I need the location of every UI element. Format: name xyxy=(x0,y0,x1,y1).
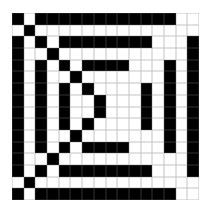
grid-cell xyxy=(106,71,118,83)
grid-cell xyxy=(94,188,106,200)
grid-cell xyxy=(152,25,164,37)
grid-cell xyxy=(47,130,59,142)
grid-cell xyxy=(117,13,129,25)
grid-cell xyxy=(59,60,71,72)
grid-cell xyxy=(129,13,141,25)
grid-cell xyxy=(35,25,47,37)
grid-cell xyxy=(176,60,188,72)
grid-cell xyxy=(59,48,71,60)
grid-cell xyxy=(176,130,188,142)
grid-cell xyxy=(70,71,82,83)
grid-cell xyxy=(129,142,141,154)
grid-cell xyxy=(141,177,153,189)
grid-cell xyxy=(164,48,176,60)
grid-cell xyxy=(94,153,106,165)
grid-cell xyxy=(164,25,176,37)
grid-cell xyxy=(47,71,59,83)
grid-cell xyxy=(82,165,94,177)
grid-cell xyxy=(164,60,176,72)
grid-cell xyxy=(152,188,164,200)
grid-cell xyxy=(59,25,71,37)
grid-cell xyxy=(70,48,82,60)
grid-cell xyxy=(47,165,59,177)
grid-cell xyxy=(12,153,24,165)
grid-cell xyxy=(106,60,118,72)
grid-cell xyxy=(129,48,141,60)
grid-cell xyxy=(152,36,164,48)
grid-cell xyxy=(117,60,129,72)
grid-cell xyxy=(164,13,176,25)
grid-cell xyxy=(117,83,129,95)
grid-cell xyxy=(94,177,106,189)
grid-cell xyxy=(70,95,82,107)
grid-cell xyxy=(82,71,94,83)
grid-cell xyxy=(187,95,199,107)
grid-cell xyxy=(94,83,106,95)
grid-cell xyxy=(59,107,71,119)
grid-cell xyxy=(24,177,36,189)
grid-cell xyxy=(117,48,129,60)
grid-cell xyxy=(152,165,164,177)
grid-cell xyxy=(176,153,188,165)
grid-cell xyxy=(176,107,188,119)
grid-cell xyxy=(187,118,199,130)
grid-cell xyxy=(94,71,106,83)
grid-cell xyxy=(129,107,141,119)
grid-cell xyxy=(176,142,188,154)
grid-cell xyxy=(24,71,36,83)
grid-cell xyxy=(82,36,94,48)
grid-cell xyxy=(152,153,164,165)
grid-cell xyxy=(117,188,129,200)
grid-cell xyxy=(82,153,94,165)
grid-cell xyxy=(70,118,82,130)
grid-cell xyxy=(141,83,153,95)
grid-cell xyxy=(24,95,36,107)
grid-cell xyxy=(187,13,199,25)
grid-cell xyxy=(12,13,24,25)
grid-cell xyxy=(12,165,24,177)
grid-cell xyxy=(141,48,153,60)
grid-cell xyxy=(12,71,24,83)
grid-cell xyxy=(24,48,36,60)
grid-cell xyxy=(24,142,36,154)
grid-cell xyxy=(12,130,24,142)
grid-cell xyxy=(47,48,59,60)
grid-cell xyxy=(187,153,199,165)
grid-cell xyxy=(94,13,106,25)
grid-cell xyxy=(164,71,176,83)
grid-cell xyxy=(176,95,188,107)
grid-cell xyxy=(94,25,106,37)
grid-cell xyxy=(106,188,118,200)
grid-cell xyxy=(35,165,47,177)
grid-cell xyxy=(129,153,141,165)
grid-cell xyxy=(152,118,164,130)
grid-cell xyxy=(82,188,94,200)
grid-cell xyxy=(12,188,24,200)
grid-cell xyxy=(106,107,118,119)
grid-cell xyxy=(24,83,36,95)
grid-cell xyxy=(24,188,36,200)
grid-cell xyxy=(47,36,59,48)
grid-cell xyxy=(24,153,36,165)
grid-cell xyxy=(141,71,153,83)
grid-cell xyxy=(117,165,129,177)
grid-cell xyxy=(164,177,176,189)
grid-cell xyxy=(59,13,71,25)
grid-cell xyxy=(164,142,176,154)
grid-cell xyxy=(94,118,106,130)
grid-cell xyxy=(117,95,129,107)
grid-cell xyxy=(129,71,141,83)
grid-cell xyxy=(82,118,94,130)
grid-cell xyxy=(164,130,176,142)
grid-cell xyxy=(187,25,199,37)
grid-cell xyxy=(35,71,47,83)
grid-cell xyxy=(164,95,176,107)
grid-cell xyxy=(129,118,141,130)
grid-cell xyxy=(117,177,129,189)
grid-cell xyxy=(176,36,188,48)
grid-cell xyxy=(141,107,153,119)
grid-cell xyxy=(12,48,24,60)
grid-cell xyxy=(24,118,36,130)
grid-cell xyxy=(176,83,188,95)
grid-cell xyxy=(187,83,199,95)
